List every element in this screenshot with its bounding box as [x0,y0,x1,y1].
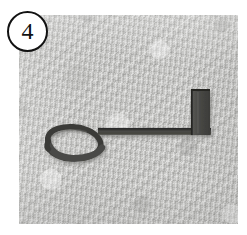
figure-panel: 4 [0,0,247,235]
circled-panel-number: 4 [7,11,48,52]
hooked-iron-object [19,15,238,224]
vertical-block-terminal [192,90,211,136]
panel-number-label: 4 [22,19,34,45]
spiral-scroll-curl [47,127,102,159]
photo-plate [19,15,238,224]
